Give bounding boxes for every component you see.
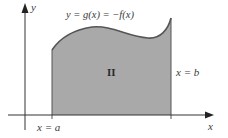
curve-equation-label: y = g(x) = −f(x) [66,9,134,20]
left-bound-label: x = a [37,122,60,133]
x-axis-label: x [208,121,213,132]
y-axis-arrow-icon [22,3,29,13]
right-bound-label: x = b [176,67,199,78]
y-axis-label: y [31,2,36,13]
region-label-ii: II [107,67,116,78]
x-axis-arrow-icon [205,112,214,119]
